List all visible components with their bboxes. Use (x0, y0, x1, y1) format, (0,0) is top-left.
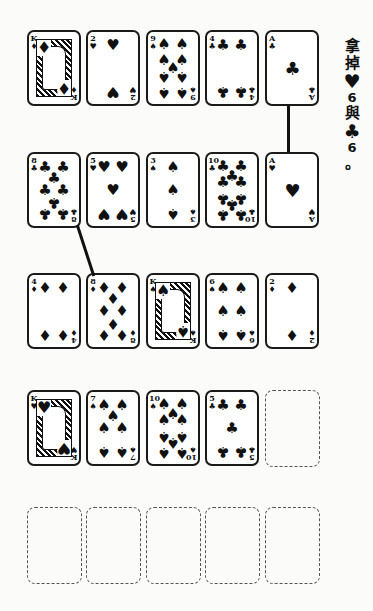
card-index: 7♠ (129, 446, 137, 462)
club-icon: ♣ (308, 86, 316, 94)
diamond-icon: ♦ (38, 280, 53, 295)
empty-card-slot[interactable] (265, 390, 320, 467)
note-number: 6 (347, 140, 356, 155)
note-char: 拿 (345, 38, 360, 55)
spade-icon: ♠ (157, 85, 172, 100)
card-8-of-clubs[interactable]: 8♣8♣♣♣♣♣♣♣♣♣ (27, 152, 81, 228)
heart-icon: ♥ (57, 440, 71, 456)
empty-card-slot[interactable] (27, 507, 82, 584)
card-2-of-diamonds[interactable]: 2♦2♦♦♦ (265, 273, 319, 349)
card-3-of-spades[interactable]: 3♠3♠♠♠♠ (146, 152, 200, 228)
diamond-icon: ♦ (308, 329, 316, 337)
club-icon: ♣ (234, 397, 249, 412)
spade-icon: ♠ (175, 445, 190, 460)
heart-icon: ♥ (115, 159, 130, 174)
card-10-of-clubs[interactable]: 10♣10♣♣♣♣♣♣♣♣♣♣♣ (205, 152, 259, 228)
diamond-icon: ♦ (285, 327, 300, 342)
club-icon: ♣ (216, 175, 231, 190)
empty-card-slot[interactable] (265, 507, 320, 584)
card-6-of-spades[interactable]: 6♠6♠♠♠♠♠♠♠ (205, 273, 259, 349)
club-icon: ♣ (343, 122, 360, 140)
spade-icon: ♠ (216, 280, 231, 295)
card-5-of-clubs[interactable]: 5♣5♣♣♣♣♣♣ (205, 390, 259, 466)
spade-icon: ♠ (234, 304, 249, 319)
empty-card-slot[interactable] (86, 507, 141, 584)
spade-icon: ♠ (189, 86, 197, 94)
face-card-art: ♥♥ (36, 399, 72, 457)
card-5-of-hearts[interactable]: 5♥5♥♥♥♥♥♥ (86, 152, 140, 228)
spade-icon: ♠ (175, 36, 190, 51)
club-icon: ♣ (216, 84, 231, 99)
instruction-note: 拿 掉 ♥ 6 與 ♣ 6 。 (340, 38, 364, 172)
heart-icon: ♥ (106, 183, 121, 198)
diamond-icon: ♦ (37, 40, 51, 56)
spade-icon: ♠ (166, 159, 181, 174)
spade-icon: ♠ (157, 445, 172, 460)
card-index: 8♦ (129, 329, 137, 345)
spade-icon: ♠ (175, 413, 190, 428)
card-k-of-hearts[interactable]: K♥K♥♥♥ (27, 390, 81, 466)
club-icon: ♣ (216, 444, 231, 459)
card-index: 4♣ (248, 86, 256, 102)
card-index: 10♣ (248, 208, 256, 224)
card-2-of-hearts[interactable]: 2♥2♥♥♥ (86, 30, 140, 106)
club-icon: ♣ (234, 175, 249, 190)
diamond-icon: ♦ (57, 80, 71, 96)
club-icon: ♣ (216, 397, 231, 412)
club-icon: ♣ (70, 208, 78, 216)
card-index: A♥ (308, 208, 316, 224)
card-10-of-spades[interactable]: 10♠10♠♠♠♠♠♠♠♠♠♠♠ (146, 390, 200, 466)
club-icon: ♣ (216, 207, 231, 222)
spade-icon: ♠ (129, 446, 137, 454)
heart-icon: ♥ (97, 159, 112, 174)
card-a-of-clubs[interactable]: A♣A♣♣ (265, 30, 319, 106)
card-4-of-diamonds[interactable]: 4♦4♦♦♦♦♦ (27, 273, 81, 349)
card-7-of-spades[interactable]: 7♠7♠♠♠♠♠♠♠♠ (86, 390, 140, 466)
diamond-icon: ♦ (56, 280, 71, 295)
diamond-icon: ♦ (38, 327, 53, 342)
card-index: 3♠ (189, 208, 197, 224)
spade-icon: ♠ (157, 68, 172, 83)
card-a-of-hearts[interactable]: A♥A♥♥ (265, 152, 319, 228)
card-index: 10♠ (189, 446, 197, 462)
diamond-icon: ♦ (129, 329, 137, 337)
spade-icon: ♠ (176, 323, 190, 339)
card-index: 2♦ (268, 277, 276, 293)
card-index: 5♥ (129, 208, 137, 224)
club-icon: ♣ (234, 84, 249, 99)
spade-icon: ♠ (157, 413, 172, 428)
spade-icon: ♠ (166, 206, 181, 221)
card-index: 2♥ (89, 34, 97, 50)
spade-icon: ♠ (115, 444, 130, 459)
spade-icon: ♠ (149, 164, 157, 172)
card-index: 5♣ (248, 446, 256, 462)
spade-icon: ♠ (115, 421, 130, 436)
heart-icon: ♥ (129, 86, 137, 94)
card-index: 2♦ (308, 329, 316, 345)
spade-icon: ♠ (175, 85, 190, 100)
card-8-of-diamonds[interactable]: 8♦8♦♦♦♦♦♦♦♦♦ (86, 273, 140, 349)
empty-card-slot[interactable] (205, 507, 260, 584)
heart-icon: ♥ (115, 206, 130, 221)
card-k-of-diamonds[interactable]: K♦K♦♦♦ (27, 30, 81, 106)
note-period: 。 (345, 155, 360, 172)
spade-icon: ♠ (234, 280, 249, 295)
diamond-icon: ♦ (115, 327, 130, 342)
card-index: A♥ (268, 156, 276, 172)
heart-icon: ♥ (37, 400, 51, 416)
heart-icon: ♥ (268, 164, 276, 172)
spade-icon: ♠ (175, 68, 190, 83)
card-9-of-spades[interactable]: 9♠9♠♠♠♠♠♠♠♠♠♠ (146, 30, 200, 106)
spade-icon: ♠ (157, 36, 172, 51)
card-index: 3♠ (149, 156, 157, 172)
spade-icon: ♠ (97, 444, 112, 459)
club-icon: ♣ (248, 208, 256, 216)
heart-icon: ♥ (106, 37, 121, 52)
card-index: 6♠ (248, 329, 256, 345)
heart-icon: ♥ (129, 208, 137, 216)
empty-card-slot[interactable] (146, 507, 201, 584)
card-k-of-spades[interactable]: K♠K♠♠♠ (146, 273, 200, 349)
card-4-of-clubs[interactable]: 4♣4♣♣♣♣♣ (205, 30, 259, 106)
club-icon: ♣ (216, 37, 231, 52)
heart-icon: ♥ (97, 206, 112, 221)
